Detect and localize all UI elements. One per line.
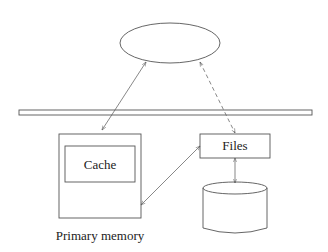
client-files-dashed-arrow <box>200 62 235 133</box>
primary-memory-box <box>59 134 141 218</box>
disk-cylinder <box>203 182 267 233</box>
primary-memory-label: Primary memory <box>56 228 145 243</box>
files-label: Files <box>222 138 247 153</box>
network-bus <box>19 110 312 115</box>
cache-label: Cache <box>84 157 117 172</box>
client-ellipse <box>120 23 220 63</box>
storage-hierarchy-diagram: Cache Files Primary memory <box>0 0 328 252</box>
memory-files-arrow <box>141 146 200 205</box>
client-memory-arrow <box>102 62 146 130</box>
